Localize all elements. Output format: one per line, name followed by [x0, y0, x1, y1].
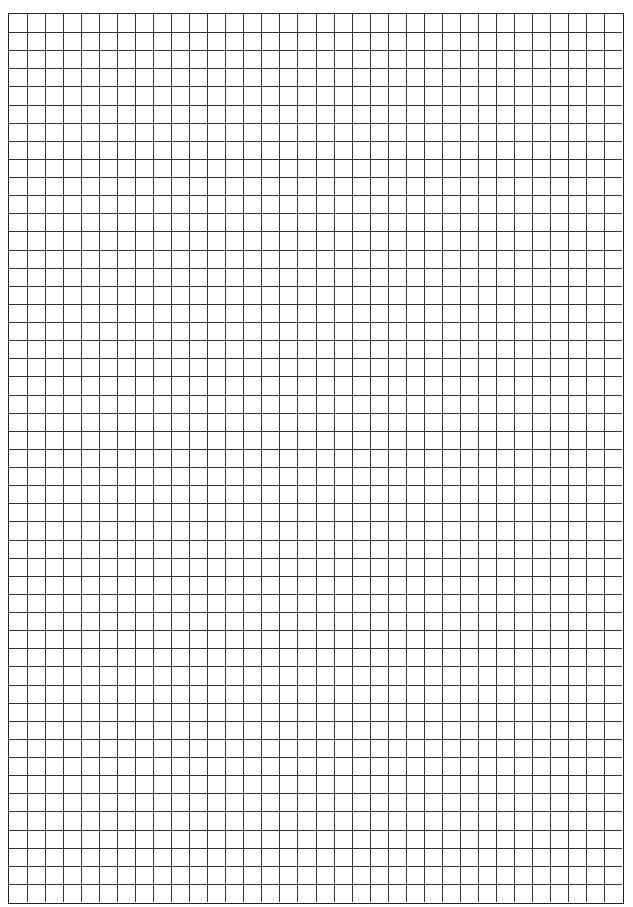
grid-lines — [9, 14, 622, 902]
graph-paper-grid — [8, 13, 624, 904]
